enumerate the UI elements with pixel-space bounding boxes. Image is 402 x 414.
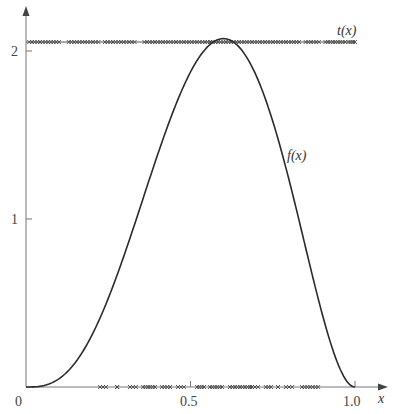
x-tick-label-0: 0 [15,394,22,409]
x-tick-label-05: 0.5 [180,394,198,409]
t-label: t(x) [337,23,357,39]
axes [23,6,389,391]
chart: 2 1 0 0.5 1.0 x t(x) f(x) [0,0,402,414]
x-axis-label: x [377,391,385,406]
y-axis-arrow-icon [23,6,30,16]
y-tick-label-2: 2 [11,44,18,59]
f-label: f(x) [287,148,307,164]
x-axis-arrow-icon [378,384,388,391]
x-tick-label-10: 1.0 [343,394,361,409]
y-tick-label-1: 1 [11,212,18,227]
f-curve [26,39,355,387]
